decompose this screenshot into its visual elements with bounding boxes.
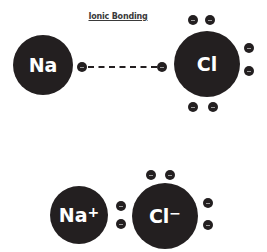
electron-icon bbox=[165, 170, 175, 180]
diagram-title: Ionic Bonding bbox=[0, 12, 236, 21]
electron-icon bbox=[157, 62, 167, 72]
sodium-symbol: Na bbox=[29, 54, 58, 76]
electron-icon bbox=[244, 66, 254, 76]
electron-icon bbox=[116, 201, 126, 211]
electron-icon bbox=[77, 62, 87, 72]
chlorine-symbol: Cl bbox=[197, 53, 217, 75]
sodium-ion: Na+ bbox=[50, 186, 108, 244]
electron-icon bbox=[188, 15, 198, 25]
electron-icon bbox=[205, 15, 215, 25]
electron-transfer-line bbox=[88, 66, 157, 68]
electron-icon bbox=[203, 220, 213, 230]
electron-icon bbox=[188, 102, 198, 112]
electron-icon bbox=[116, 219, 126, 229]
chloride-ion-symbol: Cl bbox=[149, 205, 169, 227]
electron-icon bbox=[203, 198, 213, 208]
chloride-ion: Cl− bbox=[132, 183, 198, 249]
sodium-ion-symbol: Na bbox=[59, 204, 88, 226]
sodium-atom: Na bbox=[13, 35, 73, 95]
electron-icon bbox=[244, 43, 254, 53]
electron-icon bbox=[208, 102, 218, 112]
chlorine-atom: Cl bbox=[174, 31, 240, 97]
electron-icon bbox=[146, 170, 156, 180]
